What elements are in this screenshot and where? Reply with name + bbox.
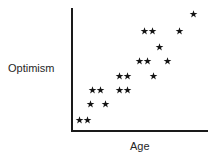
data-point-star bbox=[96, 86, 105, 95]
x-axis-label: Age bbox=[130, 140, 150, 152]
data-point-star bbox=[143, 57, 152, 66]
data-point-star bbox=[155, 43, 164, 52]
data-point-star bbox=[163, 57, 172, 66]
data-point-star bbox=[123, 72, 132, 81]
y-axis-label: Optimism bbox=[8, 62, 54, 74]
data-point-star bbox=[175, 27, 184, 36]
data-point-star bbox=[148, 27, 157, 36]
data-point-layer bbox=[0, 0, 223, 160]
data-point-star bbox=[123, 86, 132, 95]
data-point-star bbox=[189, 10, 198, 19]
data-point-star bbox=[101, 100, 110, 109]
data-point-star bbox=[149, 72, 158, 81]
data-point-star bbox=[86, 100, 95, 109]
scatter-plot-figure: Optimism Age bbox=[0, 0, 223, 160]
data-point-star bbox=[83, 116, 92, 125]
